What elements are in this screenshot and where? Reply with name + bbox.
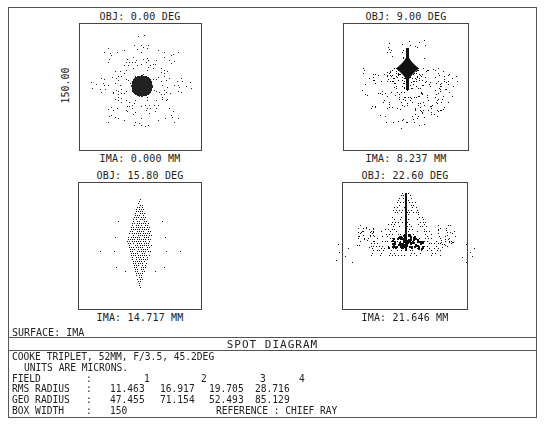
units-note: UNITS ARE MICRONS. [24, 363, 128, 374]
plot3-ima-label: IMA: 14.717 MM [96, 312, 183, 323]
plot3-obj-label: OBJ: 15.80 DEG [96, 170, 183, 181]
plot2-ima-label: IMA: 8.237 MM [366, 153, 447, 164]
spot-plot-field-3 [78, 182, 202, 310]
plot1-obj-label: OBJ: 0.00 DEG [100, 11, 181, 22]
geo-2: 71.154 [160, 395, 195, 406]
box-width-value: 150 [110, 406, 127, 417]
reference-value: REFERENCE : CHIEF RAY [216, 406, 337, 417]
plot4-obj-label: OBJ: 22.60 DEG [361, 170, 448, 181]
field-2: 2 [201, 374, 207, 385]
spot-plot-field-2 [343, 23, 469, 151]
box-width-axis-label: 150.00 [60, 67, 71, 103]
field-4: 4 [299, 374, 305, 385]
plot1-ima-label: IMA: 0.000 MM [100, 153, 181, 164]
colon: : [86, 406, 92, 417]
plot4-ima-label: IMA: 21.646 MM [361, 312, 448, 323]
box-width-label: BOX WIDTH [12, 406, 64, 417]
spot-plot-field-1 [79, 23, 202, 151]
spot-plot-field-4 [342, 182, 468, 310]
plot2-obj-label: OBJ: 9.00 DEG [366, 11, 447, 22]
